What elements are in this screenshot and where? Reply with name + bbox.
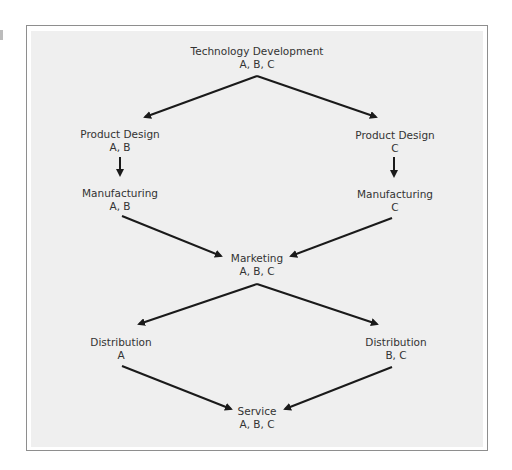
node-distribution-bc: Distribution B, C — [365, 336, 426, 361]
node-title: Marketing — [231, 252, 283, 265]
arrow-techdev-to-pd-c — [257, 76, 376, 117]
arrow-marketing-to-dist-bc — [257, 284, 377, 324]
node-title: Technology Development — [191, 45, 324, 58]
node-sub: B, C — [365, 349, 426, 362]
arrow-marketing-to-dist-a — [139, 284, 257, 324]
node-service: Service A, B, C — [238, 405, 277, 430]
node-manufacturing-c: Manufacturing C — [357, 188, 433, 213]
node-sub: A, B, C — [191, 58, 324, 71]
node-title: Product Design — [80, 128, 159, 141]
node-product-design-c: Product Design C — [355, 129, 434, 154]
node-product-design-ab: Product Design A, B — [80, 128, 159, 153]
node-sub: A, B — [82, 200, 158, 213]
node-title: Manufacturing — [357, 188, 433, 201]
arrow-mfg-c-to-marketing — [291, 218, 392, 256]
node-sub: C — [357, 201, 433, 214]
node-distribution-a: Distribution A — [90, 336, 151, 361]
node-title: Distribution — [90, 336, 151, 349]
node-title: Product Design — [355, 129, 434, 142]
node-sub: A, B, C — [231, 265, 283, 278]
node-sub: C — [355, 142, 434, 155]
node-title: Service — [238, 405, 277, 418]
arrow-dist-bc-to-service — [285, 367, 392, 409]
node-technology-development: Technology Development A, B, C — [191, 45, 324, 70]
node-sub: A — [90, 349, 151, 362]
node-title: Manufacturing — [82, 187, 158, 200]
node-title: Distribution — [365, 336, 426, 349]
arrow-dist-a-to-service — [122, 366, 231, 409]
node-sub: A, B — [80, 141, 159, 154]
node-marketing: Marketing A, B, C — [231, 252, 283, 277]
flow-arrows — [0, 0, 512, 470]
node-manufacturing-ab: Manufacturing A, B — [82, 187, 158, 212]
node-sub: A, B, C — [238, 418, 277, 431]
arrow-techdev-to-pd-ab — [145, 76, 257, 117]
arrow-mfg-ab-to-marketing — [122, 216, 221, 256]
